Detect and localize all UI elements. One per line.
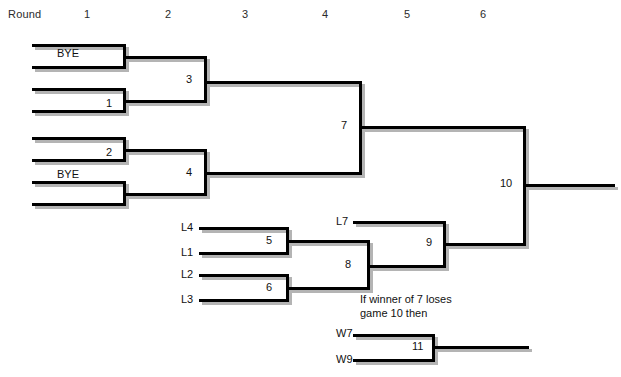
game-number-8: 8 <box>345 258 351 270</box>
game-number-11: 11 <box>412 340 423 352</box>
lb-game9-out <box>443 243 526 246</box>
game11-in-w9 <box>353 359 435 362</box>
lb-game6-in-bottom <box>199 299 289 302</box>
lb-game6-in-top <box>199 274 289 277</box>
wb-r1-slot-6-line <box>32 159 126 162</box>
wb-entry-label-bye-bottom: BYE <box>57 168 79 180</box>
if-entry-label-w7: W7 <box>336 327 353 339</box>
round-header-3: 3 <box>242 8 248 20</box>
round-header-6: 6 <box>480 8 486 20</box>
wb-entry-label-bye-top: BYE <box>57 47 79 59</box>
wb-r1-slot-4-line <box>32 110 126 113</box>
wb-r2-game3-in-top <box>123 56 207 59</box>
game-number-2: 2 <box>106 146 112 158</box>
wb-r1-slot-5-line <box>32 137 126 140</box>
round-header-4: 4 <box>322 8 328 20</box>
game-number-1: 1 <box>106 97 112 109</box>
wb-game10-out <box>523 184 615 187</box>
lb-game9-in-l7 <box>353 221 446 224</box>
lb-game9-in-bottom <box>367 265 446 268</box>
game-number-3: 3 <box>186 73 192 85</box>
lb-entry-label-l4: L4 <box>181 221 193 233</box>
lb-entry-label-l1: L1 <box>181 246 193 258</box>
game-number-6: 6 <box>266 281 272 293</box>
wb-r1-slot-3-line <box>32 88 126 91</box>
lb-entry-label-l7: L7 <box>336 215 348 227</box>
wb-r2-game3-in-bottom <box>123 100 207 103</box>
if-necessary-note: If winner of 7 loses game 10 then <box>360 292 452 320</box>
wb-r2-game4-in-bottom <box>123 193 207 196</box>
lb-entry-label-l3: L3 <box>181 293 193 305</box>
wb-r1-slot-7-line <box>32 181 126 184</box>
wb-game10-in-top <box>359 126 526 129</box>
wb-game7-in-top <box>204 81 362 84</box>
game-number-4: 4 <box>186 166 192 178</box>
wb-game7-in-bottom <box>204 172 362 175</box>
wb-r2-game3-connector <box>204 56 207 103</box>
tournament-bracket-diagram: Round 1 2 3 4 5 6 <box>0 0 621 377</box>
wb-r1-slot-2-line <box>32 66 126 69</box>
game-number-9: 9 <box>426 236 432 248</box>
lb-game5-in-top <box>199 227 289 230</box>
lb-game8-in-top <box>286 240 370 243</box>
game-number-5: 5 <box>266 234 272 246</box>
game11-in-w7 <box>353 334 435 337</box>
wb-r1-slot-8-line <box>32 203 126 206</box>
lb-entry-label-l2: L2 <box>181 268 193 280</box>
wb-r2-game4-in-top <box>123 149 207 152</box>
round-header-5: 5 <box>404 8 410 20</box>
game11-out <box>432 346 529 349</box>
if-entry-label-w9: W9 <box>336 353 353 365</box>
round-header-title: Round <box>8 8 41 20</box>
lb-game8-in-bottom <box>286 287 370 290</box>
game-number-10: 10 <box>500 177 512 189</box>
round-header-1: 1 <box>84 8 90 20</box>
game-number-7: 7 <box>341 119 347 131</box>
lb-game5-in-bottom <box>199 252 289 255</box>
round-header-2: 2 <box>165 8 171 20</box>
